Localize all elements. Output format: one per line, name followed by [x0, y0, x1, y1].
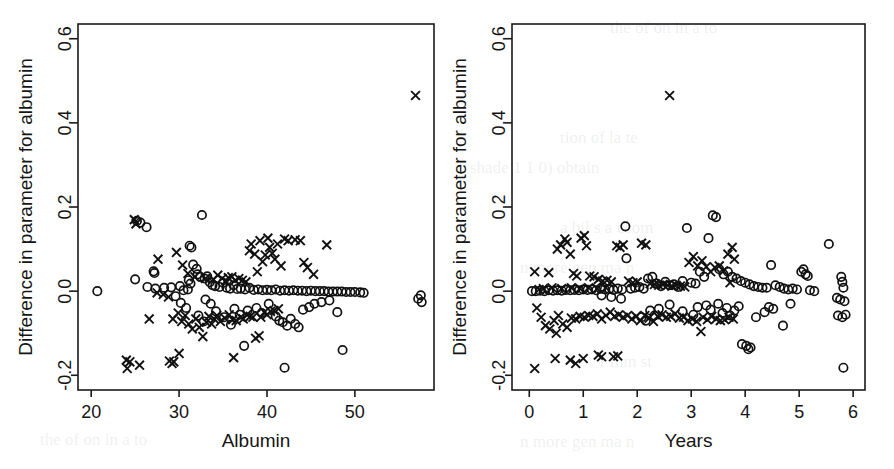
data-point-circle	[621, 222, 629, 230]
x-tick-label: 30	[169, 402, 189, 422]
x-tick-label: 1	[578, 402, 588, 422]
data-point-circle	[338, 346, 346, 354]
x-tick-label: 20	[81, 402, 101, 422]
x-tick-label: 2	[632, 402, 642, 422]
x-tick-label: 50	[345, 402, 365, 422]
x-tick-label: 3	[686, 402, 696, 422]
data-point-circle	[93, 287, 101, 295]
plot-frame	[78, 24, 434, 390]
panel-years: 0123456Years-0.20.00.20.40.6Difference i…	[450, 0, 894, 469]
data-point-circle	[333, 308, 341, 316]
data-point-circle	[265, 300, 273, 308]
x-tick-label: 0	[524, 402, 534, 422]
data-point-circle	[839, 284, 847, 292]
data-point-circle	[714, 300, 722, 308]
y-tick-label: 0.4	[489, 110, 509, 135]
scatter-plot-albumin: 20304050Albumin-0.20.00.20.40.6Differenc…	[0, 0, 450, 469]
x-tick-label: 40	[257, 402, 277, 422]
y-axis-title: Difference in parameter for albumin	[450, 58, 470, 355]
y-tick-label: 0.4	[55, 110, 75, 135]
data-markers	[93, 91, 426, 373]
panel-albumin: 20304050Albumin-0.20.00.20.40.6Differenc…	[0, 0, 450, 469]
data-point-circle	[804, 272, 812, 280]
data-point-circle	[142, 223, 150, 231]
data-point-circle	[767, 261, 775, 269]
x-tick-label: 4	[740, 402, 750, 422]
data-point-circle	[786, 300, 794, 308]
data-point-circle	[693, 303, 701, 311]
data-point-circle	[683, 224, 691, 232]
y-tick-label: 0.2	[489, 194, 509, 219]
y-axis-title: Difference in parameter for albumin	[15, 58, 36, 355]
y-tick-label: -0.2	[489, 360, 509, 391]
data-point-circle	[617, 295, 625, 303]
scatter-plot-years: 0123456Years-0.20.00.20.40.6Difference i…	[450, 0, 894, 469]
data-point-circle	[198, 211, 206, 219]
data-point-circle	[240, 342, 248, 350]
x-tick-label: 6	[848, 402, 858, 422]
data-point-circle	[825, 240, 833, 248]
data-point-circle	[252, 304, 260, 312]
y-tick-label: 0.0	[55, 279, 75, 304]
y-tick-label: 0.6	[55, 26, 75, 51]
data-point-circle	[143, 283, 151, 291]
x-axis-title: Years	[665, 430, 713, 451]
x-tick-label: 5	[794, 402, 804, 422]
x-axis-title: Albumin	[222, 430, 291, 451]
series-cross	[122, 91, 420, 373]
data-point-circle	[177, 299, 185, 307]
data-point-circle	[752, 313, 760, 321]
y-tick-label: -0.2	[55, 360, 75, 391]
data-point-circle	[665, 300, 673, 308]
data-markers	[528, 91, 850, 373]
data-point-circle	[280, 364, 288, 372]
data-point-circle	[131, 275, 139, 283]
data-point-circle	[779, 321, 787, 329]
data-point-circle	[704, 234, 712, 242]
data-point-circle	[622, 254, 630, 262]
y-tick-label: 0.6	[489, 26, 509, 51]
plot-frame	[512, 24, 865, 390]
series-circle	[93, 211, 426, 372]
data-point-circle	[839, 364, 847, 372]
y-tick-label: 0.0	[489, 279, 509, 304]
data-point-circle	[325, 296, 333, 304]
y-tick-label: 0.2	[55, 194, 75, 219]
figure-root: the of on in a to tion of la te shade 1 …	[0, 0, 894, 469]
series-cross	[530, 91, 739, 373]
